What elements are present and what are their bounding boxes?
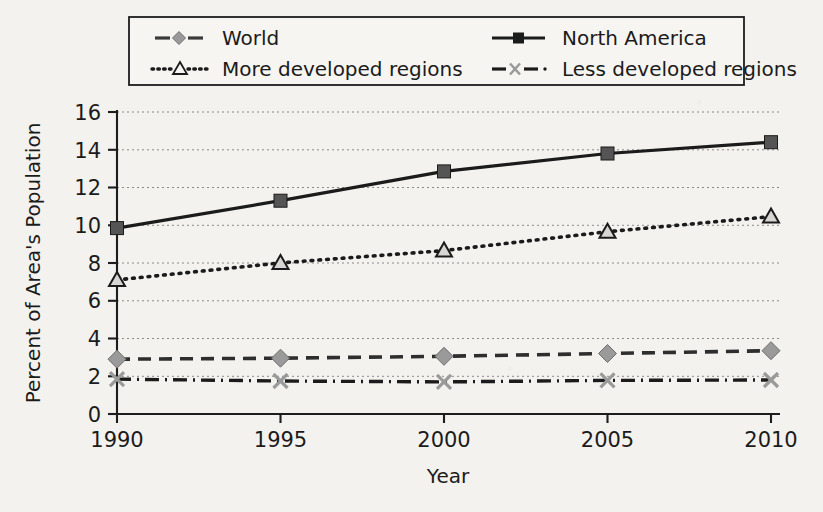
legend-label-world: World	[222, 26, 279, 50]
line-chart-svg: World More developed regions North Ameri…	[0, 0, 823, 512]
y-tick-label: 12	[74, 176, 101, 200]
x-axis-title: Year	[426, 464, 470, 488]
y-tick-label: 0	[88, 403, 101, 427]
x-tick-label: 1995	[254, 428, 307, 452]
x-tick-label: 2010	[744, 428, 797, 452]
x-tick-label: 2000	[417, 428, 470, 452]
plot-area: 16 14 12 10 8 6 4 2 0 1990 1995 2000 200…	[21, 101, 798, 488]
y-tick-label: 14	[74, 139, 101, 163]
series-world-markers	[108, 342, 780, 369]
x-tick-labels: 1990 1995 2000 2005 2010	[90, 428, 797, 452]
legend-label-more-developed-regions: More developed regions	[222, 57, 463, 81]
y-tick-label: 16	[74, 101, 101, 125]
series-less-developed-regions	[110, 372, 778, 389]
chart-legend: World More developed regions North Ameri…	[129, 17, 797, 85]
series-north-america	[111, 136, 778, 235]
y-tick-label: 6	[88, 289, 101, 313]
legend-label-north-america: North America	[562, 26, 707, 50]
series-world	[108, 342, 780, 369]
series-north-america-markers	[111, 136, 778, 235]
y-tick-label: 2	[88, 365, 101, 389]
gridlines	[117, 112, 780, 376]
y-tick-label: 4	[88, 327, 101, 351]
y-axis-title: Percent of Area's Population	[21, 123, 45, 404]
y-tick-label: 10	[74, 214, 101, 238]
series-more-developed-regions	[109, 209, 779, 286]
x-tick-label: 2005	[581, 428, 634, 452]
chart-figure: World More developed regions North Ameri…	[0, 0, 823, 512]
y-tick-label: 8	[88, 252, 101, 276]
series-more-developed-regions-markers	[109, 209, 779, 286]
legend-label-less-developed-regions: Less developed regions	[562, 57, 797, 81]
x-tick-label: 1990	[90, 428, 143, 452]
y-tick-labels: 16 14 12 10 8 6 4 2 0	[74, 101, 101, 427]
